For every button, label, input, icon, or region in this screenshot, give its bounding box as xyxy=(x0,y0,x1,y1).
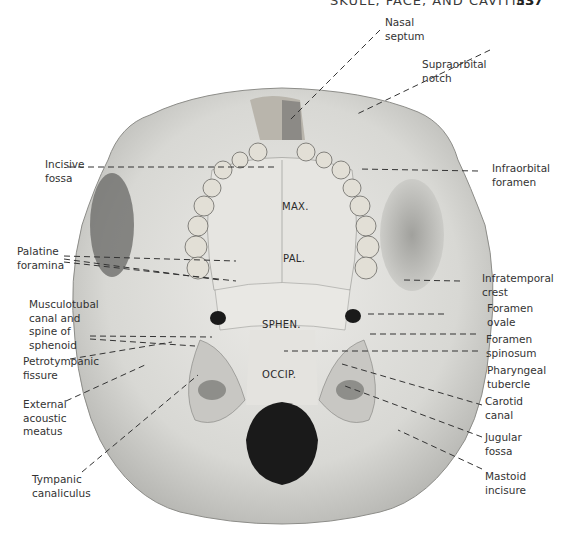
label-jugular-fossa: Jugular fossa xyxy=(485,431,522,458)
label-tympanic-canaliculus: Tympanic canaliculus xyxy=(32,473,91,500)
label-carotid-canal: Carotid canal xyxy=(485,395,523,422)
label-pharyngeal-tubercle: Pharyngeal tubercle xyxy=(487,364,546,391)
bone-label-palatine: PAL. xyxy=(283,253,305,264)
bone-label-sphenoid: SPHEN. xyxy=(262,319,301,330)
label-mastoid-incisure: Mastoid incisure xyxy=(485,470,526,497)
label-infratemporal-crest: Infratemporal crest xyxy=(482,272,554,299)
label-external-acoustic-meatus: External acoustic meatus xyxy=(23,398,67,439)
label-incisive-fossa: Incisive fossa xyxy=(45,158,85,185)
label-petrotympanic-fissure: Petrotympanic fissure xyxy=(23,355,99,382)
label-supraorbital-notch: Supraorbital notch xyxy=(422,58,487,85)
label-foramen-ovale: Foramen ovale xyxy=(487,302,533,329)
bone-label-occipital: OCCIP. xyxy=(262,369,296,380)
label-infraorbital-foramen: Infraorbital foramen xyxy=(492,162,550,189)
label-palatine-foramina: Palatine foramina xyxy=(17,245,64,272)
label-foramen-spinosum: Foramen spinosum xyxy=(486,333,537,360)
label-nasal-septum: Nasal septum xyxy=(385,16,425,43)
skull-figure: MAX. PAL. SPHEN. OCCIP. Incisive fossa P… xyxy=(0,0,564,544)
label-musculotubal-canal: Musculotubal canal and spine of sphenoid xyxy=(29,298,99,352)
bone-label-maxilla: MAX. xyxy=(282,201,309,212)
